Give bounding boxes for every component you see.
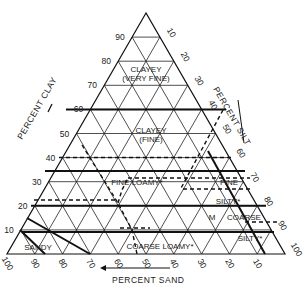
- ternary-diagram: 102030405060708090 102030405060708090100…: [0, 0, 306, 291]
- silt-tick: 20: [179, 50, 193, 63]
- clay-tick: 70: [88, 80, 98, 90]
- label-clayey-very-fine-1: CLAYEY: [131, 65, 163, 74]
- label-coarse: COARSE: [227, 213, 261, 222]
- clay-tick: 20: [18, 201, 28, 211]
- label-fine-loamy: FINE LOAMY*: [111, 178, 163, 187]
- clay-tick: 60: [74, 104, 84, 114]
- label-coarse-loamy: COARSE LOAMY*: [126, 242, 193, 251]
- sand-arrowhead-icon: [100, 265, 106, 271]
- region-labels: CLAYEY (VERY FINE) CLAYEY (FINE) FINE LO…: [24, 65, 262, 252]
- sand-tick: 90: [29, 257, 43, 270]
- clay-tick: 40: [46, 153, 56, 163]
- silt-tick: 90: [276, 219, 290, 232]
- sand-axis-title: PERCENT SAND: [112, 275, 184, 285]
- label-coarse-silty: SILTY*: [238, 234, 263, 243]
- sand-tick: 80: [57, 257, 71, 270]
- silt-tick: 30: [193, 74, 207, 87]
- label-fine-silty-1: FINE: [220, 178, 238, 187]
- grid-line: [77, 134, 147, 255]
- sand-tick: 70: [84, 257, 98, 270]
- label-m: M: [209, 213, 216, 222]
- clay-tick: 90: [115, 32, 125, 42]
- sand-tick: 20: [223, 257, 237, 270]
- clay-tick: 50: [60, 129, 70, 139]
- silt-tick: 100: [289, 241, 305, 259]
- grid-line: [90, 85, 187, 254]
- grid-line: [146, 134, 216, 255]
- label-clayey-very-fine-2: (VERY FINE): [122, 74, 170, 83]
- silt-tick: 10: [165, 26, 179, 39]
- clay-tick: 30: [32, 177, 42, 187]
- grid-line: [104, 85, 201, 254]
- sand-tick-labels: 100908070605040302010: [0, 255, 265, 273]
- clay-tick: 10: [4, 225, 14, 235]
- label-clayey-fine-1: CLAYEY: [136, 126, 168, 135]
- clay-tick: 80: [101, 56, 111, 66]
- clay-axis-title: PERCENT CLAY: [15, 75, 59, 141]
- sand-tick: 30: [196, 257, 210, 270]
- silt-tick: 60: [234, 146, 248, 159]
- label-fine-silty-2: SILTY*: [216, 197, 241, 206]
- label-sandy: SANDY: [24, 243, 52, 252]
- silt-tick: 70: [248, 171, 262, 184]
- clay-arrow-icon: [48, 104, 52, 112]
- soil-texture-triangle: 102030405060708090 102030405060708090100…: [0, 0, 306, 291]
- silt-tick-labels: 102030405060708090100: [165, 26, 305, 258]
- label-clayey-fine-2: (FINE): [139, 135, 163, 144]
- sand-tick: 10: [251, 257, 265, 270]
- sand-tick: 100: [0, 255, 16, 273]
